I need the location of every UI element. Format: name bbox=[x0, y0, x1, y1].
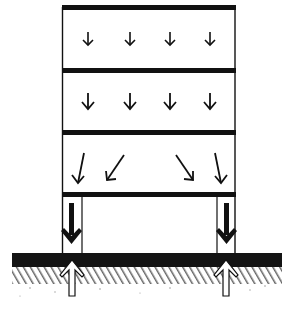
down-arrow-icon bbox=[124, 93, 136, 109]
bold-down-arrow-icon bbox=[216, 203, 237, 244]
down-arrow-icon bbox=[205, 32, 215, 45]
down-arrow-icon bbox=[164, 93, 176, 109]
down-arrow-icon bbox=[82, 93, 94, 109]
floor-slab-base bbox=[62, 192, 236, 197]
diagonal-arrow-icon bbox=[106, 155, 124, 180]
column-load-arrows bbox=[61, 203, 237, 244]
floor-slab-2 bbox=[62, 68, 236, 73]
roof-slab bbox=[62, 5, 236, 10]
diagonal-arrow-icon bbox=[215, 153, 227, 183]
bold-down-arrow-icon bbox=[61, 203, 82, 244]
floor-1-load-arrows bbox=[83, 32, 215, 45]
ground-hatch bbox=[12, 266, 282, 284]
load-path-diagram bbox=[0, 0, 293, 311]
ground-band bbox=[12, 253, 282, 267]
down-arrow-icon bbox=[83, 32, 93, 45]
floor-slab-3 bbox=[62, 130, 236, 135]
floor-2-load-arrows bbox=[82, 93, 216, 109]
diagonal-arrow-icon bbox=[72, 153, 84, 183]
ground bbox=[12, 253, 282, 297]
floor-3-load-arrows bbox=[72, 153, 227, 183]
down-arrow-icon bbox=[165, 32, 175, 45]
diagonal-arrow-icon bbox=[176, 155, 193, 180]
down-arrow-icon bbox=[125, 32, 135, 45]
down-arrow-icon bbox=[204, 93, 216, 109]
